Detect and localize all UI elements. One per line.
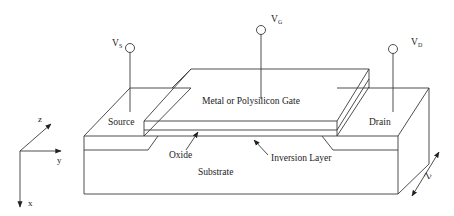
oxide-pointer-arrow bbox=[186, 132, 198, 150]
coordinate-axes: z y x bbox=[20, 114, 62, 208]
z-axis-arrow-icon bbox=[20, 124, 51, 151]
inversion-layer-label: Inversion Layer bbox=[271, 153, 332, 163]
inversion-layer-pointer-arrow bbox=[254, 140, 268, 155]
source-contact-icon bbox=[126, 44, 135, 53]
gate-terminal: VG bbox=[257, 14, 283, 99]
source-terminal: VS bbox=[112, 38, 135, 112]
source-voltage-label: VS bbox=[112, 38, 122, 49]
z-axis-label: z bbox=[38, 114, 42, 124]
drain-voltage-label: VD bbox=[411, 37, 423, 48]
gate-voltage-label: VG bbox=[271, 14, 283, 25]
source-label: Source bbox=[108, 117, 134, 127]
gate-contact-icon bbox=[257, 26, 266, 35]
z-dimension-label: Z bbox=[422, 170, 434, 180]
mosfet-diagram: VS VG VD Metal or Polysilicon Gate Sourc… bbox=[0, 0, 454, 216]
oxide-label: Oxide bbox=[169, 150, 192, 160]
width-dimension: Z bbox=[412, 152, 439, 196]
drain-terminal: VD bbox=[389, 37, 423, 112]
y-axis-label: y bbox=[57, 155, 62, 165]
source-region bbox=[84, 88, 191, 150]
x-axis-label: x bbox=[28, 198, 33, 208]
gate-label: Metal or Polysilicon Gate bbox=[202, 96, 300, 106]
substrate-label: Substrate bbox=[198, 167, 233, 177]
drain-contact-icon bbox=[389, 45, 398, 54]
drain-label: Drain bbox=[369, 117, 391, 127]
